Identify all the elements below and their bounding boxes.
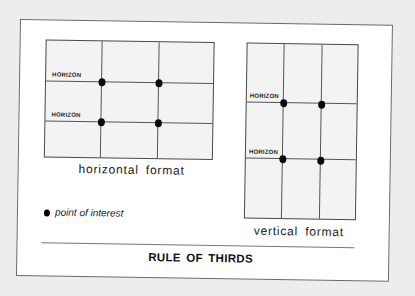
point-of-interest-legend-icon <box>44 209 50 216</box>
point-of-interest-dot <box>317 157 324 165</box>
grid-line-vertical-2 <box>157 42 160 158</box>
vertical-format-caption: vertical format <box>254 224 345 239</box>
horizon-line-2 <box>246 158 356 161</box>
horizon-label: HORIZON <box>250 93 279 99</box>
vertical-format-grid: HORIZON HORIZON <box>244 43 359 221</box>
title-divider <box>41 242 354 248</box>
horizon-line-1 <box>46 80 213 84</box>
horizon-label: HORIZON <box>249 149 278 155</box>
grid-line-vertical-1 <box>281 44 285 218</box>
diagram-title: RULE OF THIRDS <box>148 251 253 265</box>
point-of-interest-dot <box>155 119 162 127</box>
point-of-interest-dot <box>279 155 286 163</box>
legend: point of interest <box>44 206 124 218</box>
horizontal-format-grid: HORIZON HORIZON <box>44 39 215 160</box>
horizon-label: HORIZON <box>51 112 80 118</box>
horizontal-format-caption: horizontal format <box>79 162 185 178</box>
point-of-interest-dot <box>98 78 105 86</box>
point-of-interest-dot <box>280 99 287 107</box>
legend-label: point of interest <box>55 207 124 219</box>
point-of-interest-dot <box>98 118 105 126</box>
horizon-line-2 <box>45 120 212 124</box>
grid-line-vertical-1 <box>100 41 103 157</box>
diagram-card: HORIZON HORIZON horizontal format point … <box>16 19 393 282</box>
grid-line-vertical-2 <box>319 45 323 219</box>
horizon-label: HORIZON <box>52 72 81 78</box>
point-of-interest-dot <box>318 101 325 109</box>
point-of-interest-dot <box>155 79 162 87</box>
horizon-line-1 <box>247 102 357 105</box>
